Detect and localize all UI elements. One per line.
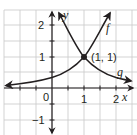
exponential-graph: (1, 1) f g x y 0 1 2 2 1 −1 (0, 0, 137, 135)
curve-g-label: g (117, 65, 123, 79)
curve-f (6, 13, 110, 86)
tick-label-y2: 2 (38, 19, 44, 31)
tick-label-x0: 0 (43, 91, 49, 103)
tick-label-x1: 1 (81, 93, 87, 105)
intersection-point (81, 54, 87, 60)
tick-label-x2: 2 (113, 93, 119, 105)
tick-label-y1: 1 (39, 51, 45, 63)
tick-label-ym1: −1 (32, 114, 45, 126)
y-axis-label: y (62, 8, 69, 22)
point-label: (1, 1) (91, 51, 117, 63)
x-axis-label: x (121, 90, 128, 104)
curve-f-label: f (106, 21, 111, 35)
